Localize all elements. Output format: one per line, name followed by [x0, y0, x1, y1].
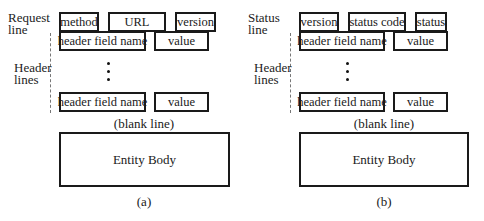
- status-field: status: [415, 12, 447, 32]
- ellipsis-dot: [107, 78, 110, 81]
- ellipsis-dot: [346, 70, 349, 73]
- blank-line-label: (blank line): [59, 116, 229, 132]
- header-field-name-1: header field name: [299, 31, 385, 51]
- status-code-field: status code: [348, 12, 406, 32]
- blank-line-label: (blank line): [299, 116, 469, 132]
- status-line-label: Status line: [248, 12, 280, 36]
- header-lines-label-word2: lines: [14, 74, 52, 86]
- ellipsis-dot: [107, 70, 110, 73]
- ellipsis-dot: [346, 62, 349, 65]
- request-line-label: Request line: [8, 12, 50, 36]
- request-message-diagram: Request line method URL version Header l…: [0, 0, 242, 221]
- caption-a: (a): [59, 194, 229, 210]
- header-field-name-1: header field name: [59, 31, 146, 51]
- header-value-2: value: [154, 92, 209, 112]
- version-field: version: [299, 12, 339, 32]
- response-message-diagram: Status line version status code status H…: [240, 0, 482, 221]
- entity-body: Entity Body: [299, 132, 469, 187]
- status-line-label-word2: line: [248, 24, 280, 36]
- header-field-name-2: header field name: [59, 92, 146, 112]
- method-field: method: [59, 12, 99, 32]
- header-value-1: value: [393, 31, 448, 51]
- request-line-label-word2: line: [8, 24, 50, 36]
- header-value-2: value: [393, 92, 448, 112]
- header-lines-label: Header lines: [254, 62, 292, 86]
- caption-b: (b): [299, 194, 469, 210]
- header-value-1: value: [154, 31, 209, 51]
- header-lines-label: Header lines: [14, 62, 52, 86]
- ellipsis-dot: [346, 78, 349, 81]
- version-field: version: [175, 12, 216, 32]
- ellipsis-dot: [107, 62, 110, 65]
- header-lines-label-word2: lines: [254, 74, 292, 86]
- header-field-name-2: header field name: [299, 92, 385, 112]
- entity-body: Entity Body: [59, 132, 230, 187]
- url-field: URL: [108, 12, 166, 32]
